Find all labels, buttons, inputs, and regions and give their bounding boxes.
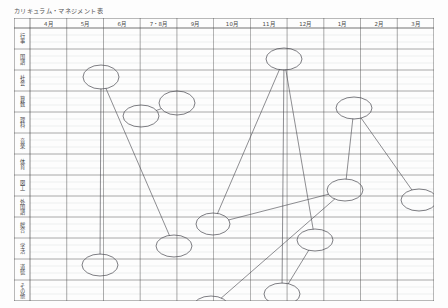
column-header-2[interactable]: 5月	[67, 20, 104, 28]
row-header-体育[interactable]: 体育	[15, 154, 29, 175]
row-header-総合[interactable]: 総合	[15, 217, 29, 238]
column-header-8[interactable]: 12月	[287, 20, 324, 28]
column-header-6[interactable]: 10月	[214, 20, 251, 28]
row-header-行事[interactable]: 行事	[15, 28, 29, 49]
row-header-社会[interactable]: 社会	[15, 70, 29, 91]
row-header-音楽[interactable]: 音楽	[15, 133, 29, 154]
row-header-図工[interactable]: 図工	[15, 175, 29, 196]
row-header-国語[interactable]: 国語	[15, 49, 29, 70]
column-header-3[interactable]: 6月	[103, 20, 140, 28]
column-header-7[interactable]: 11月	[250, 20, 287, 28]
column-header-9[interactable]: 1月	[324, 20, 361, 28]
column-header-11[interactable]: 3月	[397, 20, 434, 28]
column-header-4[interactable]: 7・8月	[140, 20, 177, 28]
column-header-1[interactable]: 4月	[30, 20, 67, 28]
table-grid	[14, 18, 434, 301]
column-header-10[interactable]: 2月	[361, 20, 398, 28]
row-header-学活[interactable]: 学活	[15, 238, 29, 259]
row-header-算数[interactable]: 算数	[15, 91, 29, 112]
document-page: カリキュラム・マネジメント表 4月5月6月7・8月9月10月11月12月1月2月…	[0, 0, 448, 308]
curriculum-management-table[interactable]: 4月5月6月7・8月9月10月11月12月1月2月3月 行事国語社会算数理科音楽…	[14, 18, 434, 301]
row-header-理科[interactable]: 理科	[15, 112, 29, 133]
row-header-道徳[interactable]: 道徳	[15, 259, 29, 280]
column-header-5[interactable]: 9月	[177, 20, 214, 28]
page-title: カリキュラム・マネジメント表	[14, 6, 103, 15]
row-header-外国語[interactable]: 外国語	[15, 196, 29, 217]
row-header-その他[interactable]: その他	[15, 280, 29, 301]
